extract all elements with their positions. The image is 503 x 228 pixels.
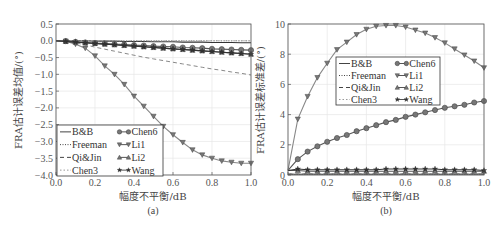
y-axis-label-b: FRA估计误差标准差/(°): [254, 46, 266, 154]
caption-a: (a): [147, 205, 158, 217]
chart-panel-b: 1086420 0.00.20.40.60.81.0 幅度不平衡/dB (b) …: [254, 19, 490, 218]
legend-label: Chen3: [72, 165, 98, 176]
legend-b: B&BFreemanQi&JinChen3Chen6Li1Li2Wang: [336, 57, 440, 105]
legend-label: Qi&Jin: [72, 152, 101, 163]
legend-label: Chen6: [131, 126, 157, 137]
x-tick-label: 1.0: [245, 177, 258, 188]
legend-label: Li2: [131, 152, 145, 163]
x-tick-label: 0.8: [206, 177, 219, 188]
x-axis-label-b: 幅度不平衡/dB: [352, 190, 419, 202]
x-tick-label: 0.0: [50, 177, 63, 188]
legend-label: Freeman: [72, 139, 107, 150]
x-tick-label: 0.8: [439, 177, 452, 188]
y-tick-label: 4: [280, 109, 285, 120]
legend-label: Li1: [409, 70, 423, 81]
legend-label: Wang: [131, 165, 154, 176]
y-tick-label: 0.5: [41, 19, 54, 30]
y-tick-label: 6: [280, 79, 285, 90]
legend-label: B&B: [351, 58, 372, 69]
y-tick-label: −1.0: [35, 69, 53, 80]
x-tick-label: 0.4: [360, 177, 373, 188]
x-tick-label: 0.6: [399, 177, 412, 188]
x-tick-label: 0.0: [282, 177, 295, 188]
x-tick-label: 0.4: [128, 177, 141, 188]
legend-a: B&BFreemanQi&JinChen3Chen6Li1Li2Wang: [57, 125, 163, 176]
y-tick-label: 0.0: [41, 35, 54, 46]
y-ticks-b: 1086420: [275, 19, 291, 181]
y-tick-label: 8: [280, 49, 285, 60]
y-tick-label: 10: [275, 19, 285, 30]
legend-label: Chen3: [351, 94, 377, 105]
legend-label: Qi&Jin: [351, 82, 380, 93]
legend-label: B&B: [72, 126, 93, 137]
legend-label: Freeman: [351, 70, 386, 81]
y-ticks-a: 0.50.0−0.5−1.0−1.5−2.0−2.5−3.0−3.5−4.0: [35, 19, 59, 181]
x-tick-label: 0.2: [321, 177, 334, 188]
y-tick-label: 2: [280, 139, 285, 150]
x-tick-label: 1.0: [478, 177, 491, 188]
x-tick-label: 0.6: [167, 177, 180, 188]
y-tick-label: −0.5: [35, 52, 53, 63]
legend-label: Wang: [409, 94, 432, 105]
y-tick-label: −3.5: [35, 153, 53, 164]
y-tick-label: −3.0: [35, 136, 53, 147]
chart-panel-a: 0.50.0−0.5−1.0−1.5−2.0−2.5−3.0−3.5−4.0 0…: [12, 19, 257, 218]
series-chen6: [288, 98, 487, 170]
legend-label: Chen6: [409, 58, 435, 69]
x-axis-label-a: 幅度不平衡/dB: [119, 190, 186, 202]
y-tick-label: −1.5: [35, 86, 53, 97]
legend-label: Li2: [409, 82, 423, 93]
y-tick-label: −2.5: [35, 119, 53, 130]
caption-b: (b): [380, 205, 392, 217]
x-tick-label: 0.2: [89, 177, 102, 188]
figure-canvas: 0.50.0−0.5−1.0−1.5−2.0−2.5−3.0−3.5−4.0 0…: [0, 0, 503, 228]
y-tick-label: −2.0: [35, 102, 53, 113]
y-axis-label-a: FRA估计误差均值/(°): [12, 51, 24, 149]
legend-label: Li1: [131, 139, 145, 150]
